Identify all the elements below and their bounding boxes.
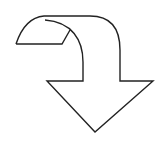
- curved-arrow-down-icon: [0, 0, 163, 145]
- arrow-figure: Curved down-turning arrow outline: [0, 0, 163, 145]
- arrow-outline: [16, 16, 153, 132]
